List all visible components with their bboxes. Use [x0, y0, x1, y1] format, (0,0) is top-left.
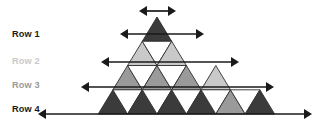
arrow-row-0-head-left-icon — [139, 6, 147, 16]
arrow-row-2-head-left-icon — [101, 57, 109, 67]
figure-canvas: Row 1Row 2Row 3Row 4 — [0, 0, 331, 126]
row-label-3: Row 3 — [12, 80, 40, 90]
arrow-row-3-head-right-icon — [266, 82, 274, 92]
row-labels-layer: Row 1Row 2Row 3Row 4 — [12, 29, 41, 114]
arrow-row-0-head-right-icon — [168, 6, 176, 16]
tri-r1-up-1 — [142, 17, 171, 41]
arrow-row-2-head-right-icon — [231, 57, 239, 67]
row-label-2: Row 2 — [12, 56, 40, 66]
arrow-row-0 — [139, 6, 176, 16]
arrow-row-4-head-right-icon — [304, 109, 312, 119]
arrow-row-1-head-left-icon — [120, 29, 128, 39]
row-label-4: Row 4 — [12, 104, 41, 114]
row-label-1: Row 1 — [12, 29, 40, 39]
triangle-rows-figure: Row 1Row 2Row 3Row 4 — [0, 0, 331, 126]
arrow-row-1-head-right-icon — [196, 29, 204, 39]
arrow-row-3-head-left-icon — [81, 82, 89, 92]
